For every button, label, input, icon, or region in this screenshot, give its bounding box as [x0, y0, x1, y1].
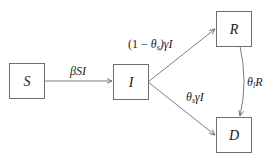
edge-label-i-d-rest: γI [195, 90, 205, 104]
edge-label-i-r-close: )γI [159, 37, 174, 51]
edge-label-i-r-open: (1 − [128, 37, 151, 51]
edge-label-r-d-rest: R [254, 75, 263, 89]
edge-label-r-d: θlR [247, 75, 263, 90]
edge-label-s-i: βSI [69, 64, 87, 78]
node-d-label: D [228, 128, 239, 143]
node-i: I [114, 65, 149, 100]
node-r: R [217, 12, 252, 47]
node-s-label: S [24, 74, 31, 89]
node-r-label: R [229, 22, 239, 37]
edge-label-i-d: θsγI [186, 90, 205, 105]
node-d: D [217, 118, 252, 153]
edge-label-i-r: (1 − θs)γI [128, 37, 174, 52]
node-s: S [10, 64, 45, 99]
edge-r-to-d [240, 46, 244, 116]
flow-diagram: S I R D βSI (1 − θs)γI θsγI θlR [0, 0, 274, 158]
edge-i-to-d [148, 82, 215, 135]
edge-i-to-r [148, 29, 215, 82]
